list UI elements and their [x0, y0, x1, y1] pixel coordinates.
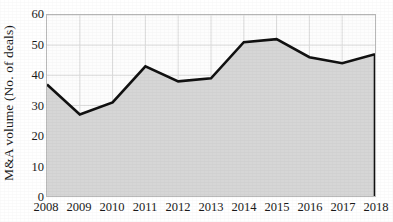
y-tick-label: 10 — [20, 160, 44, 173]
x-tick-label: 2016 — [298, 201, 323, 214]
y-tick-label: 60 — [20, 8, 44, 21]
x-tick-label: 2011 — [133, 201, 158, 214]
x-tick-label: 2014 — [232, 201, 257, 214]
y-tick-label: 30 — [20, 99, 44, 112]
x-tick-label: 2009 — [67, 201, 92, 214]
plot-area — [46, 14, 376, 197]
x-tick-label: 2013 — [199, 201, 224, 214]
area-chart-svg — [47, 15, 375, 196]
x-tick-label: 2018 — [364, 201, 389, 214]
x-tick-label: 2010 — [100, 201, 125, 214]
x-tick-label: 2012 — [166, 201, 191, 214]
y-axis-title: M&A volume (No. of deals) — [0, 0, 18, 205]
y-tick-label: 40 — [20, 69, 44, 82]
y-axis-tick-labels: 0102030405060 — [18, 0, 44, 222]
x-tick-label: 2017 — [331, 201, 356, 214]
x-axis-tick-labels: 2008200920102011201220132014201520162017… — [46, 199, 376, 221]
chart-figure: M&A volume (No. of deals) 0102030405060 … — [0, 0, 393, 222]
y-tick-label: 20 — [20, 130, 44, 143]
x-tick-label: 2015 — [265, 201, 290, 214]
x-tick-label: 2008 — [34, 201, 59, 214]
y-tick-label: 50 — [20, 38, 44, 51]
y-axis-title-text: M&A volume (No. of deals) — [1, 25, 17, 181]
